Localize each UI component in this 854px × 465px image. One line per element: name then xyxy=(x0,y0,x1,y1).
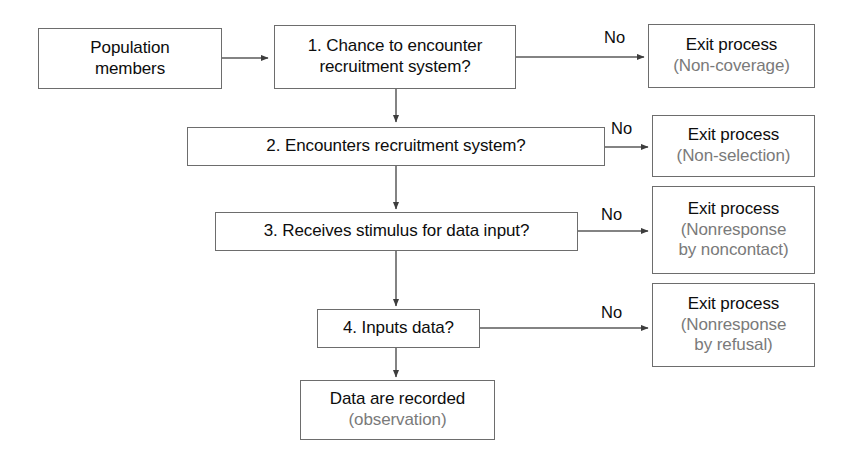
node-step2-encounters-recruitment-system[interactable]: 2. Encounters recruitment system? xyxy=(187,127,605,166)
node-step3-line1: 3. Receives stimulus for data input? xyxy=(264,221,530,242)
node-step1-chance-to-encounter[interactable]: 1. Chance to encounter recruitment syste… xyxy=(274,25,516,89)
node-exit2-line2: (Non-selection) xyxy=(677,146,791,167)
node-population-members-line1: Population xyxy=(90,38,169,59)
node-exit2-line1: Exit process xyxy=(688,125,779,146)
flowchart-canvas: Population members 1. Chance to encounte… xyxy=(0,0,854,465)
edge-label-no-step3: No xyxy=(601,205,622,224)
node-exit4-line3: by refusal) xyxy=(694,335,772,356)
node-exit4-line1: Exit process xyxy=(688,294,779,315)
node-exit1-non-coverage[interactable]: Exit process (Non-coverage) xyxy=(648,24,815,88)
node-step4-inputs-data[interactable]: 4. Inputs data? xyxy=(317,309,480,348)
node-outcome-line1: Data are recorded xyxy=(330,389,465,410)
node-step1-line1: 1. Chance to encounter xyxy=(308,36,483,57)
node-exit3-nonresponse-noncontact[interactable]: Exit process (Nonresponse by noncontact) xyxy=(652,186,815,274)
node-step4-line1: 4. Inputs data? xyxy=(343,318,454,339)
edge-label-no-step4: No xyxy=(601,303,622,322)
node-exit4-nonresponse-refusal[interactable]: Exit process (Nonresponse by refusal) xyxy=(652,283,815,367)
node-population-members[interactable]: Population members xyxy=(38,28,222,89)
node-step3-receives-stimulus[interactable]: 3. Receives stimulus for data input? xyxy=(215,212,578,251)
node-exit3-line3: by noncontact) xyxy=(678,240,788,261)
node-exit3-line1: Exit process xyxy=(688,199,779,220)
node-outcome-data-are-recorded[interactable]: Data are recorded (observation) xyxy=(300,380,495,440)
edge-label-no-step1: No xyxy=(604,28,625,47)
node-exit1-line2: (Non-coverage) xyxy=(673,56,790,77)
node-outcome-line2: (observation) xyxy=(349,410,447,431)
node-step1-line2: recruitment system? xyxy=(319,57,470,78)
node-exit1-line1: Exit process xyxy=(686,35,777,56)
node-exit2-non-selection[interactable]: Exit process (Non-selection) xyxy=(652,115,815,177)
edge-label-no-step2: No xyxy=(611,119,632,138)
node-population-members-line2: members xyxy=(95,59,165,80)
node-exit4-line2: (Nonresponse xyxy=(681,315,787,336)
node-exit3-line2: (Nonresponse xyxy=(681,220,787,241)
node-step2-line1: 2. Encounters recruitment system? xyxy=(266,136,525,157)
